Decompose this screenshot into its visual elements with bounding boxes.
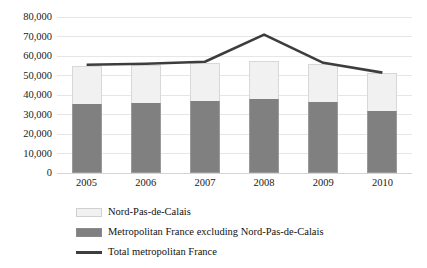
legend-item: Total metropolitan France	[76, 242, 416, 262]
legend-item: Nord-Pas-de-Calais	[76, 202, 416, 222]
plot-area	[57, 17, 412, 173]
y-axis-tick-label: 40,000	[0, 90, 52, 101]
legend-label: Total metropolitan France	[108, 247, 217, 258]
y-axis-tick-label: 70,000	[0, 31, 52, 42]
y-axis-tick-label: 20,000	[0, 129, 52, 140]
legend-item: Metropolitan France excluding Nord-Pas-d…	[76, 222, 416, 242]
y-axis-tick-label: 80,000	[0, 12, 52, 23]
y-axis-tick-label: 10,000	[0, 148, 52, 159]
chart-legend: Nord-Pas-de-CalaisMetropolitan France ex…	[76, 202, 416, 262]
legend-label: Metropolitan France excluding Nord-Pas-d…	[108, 227, 323, 238]
x-axis-tick-label: 2010	[347, 178, 417, 189]
y-axis-tick-label: 60,000	[0, 51, 52, 62]
y-axis-tick-label: 50,000	[0, 70, 52, 81]
y-axis-tick-label: 30,000	[0, 109, 52, 120]
chart-figure: Nord-Pas-de-CalaisMetropolitan France ex…	[0, 0, 427, 268]
total-metropolitan-france-line	[87, 35, 383, 73]
legend-label: Nord-Pas-de-Calais	[108, 207, 191, 218]
legend-swatch-line	[76, 248, 102, 257]
y-axis-tick-label: 0	[0, 168, 52, 179]
legend-swatch-light	[76, 208, 102, 217]
line-series	[57, 17, 412, 173]
legend-swatch-dark	[76, 228, 102, 237]
